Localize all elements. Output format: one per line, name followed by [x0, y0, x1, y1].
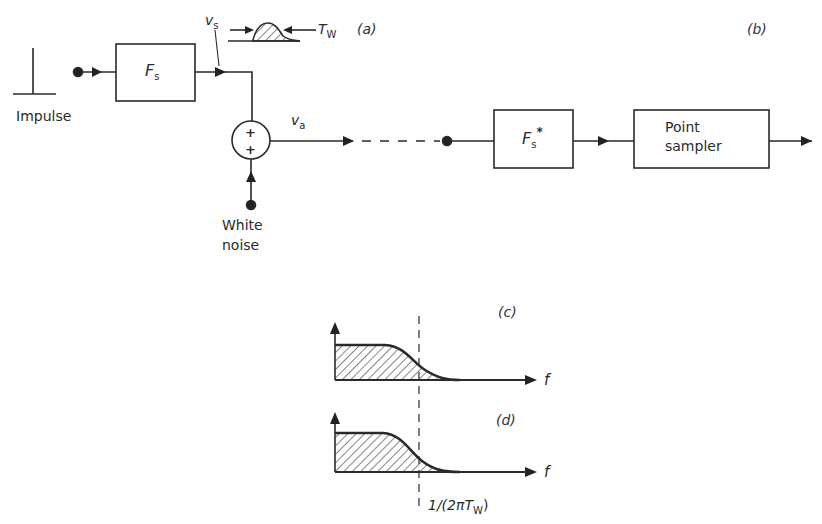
va-subscript: a — [299, 120, 305, 131]
tw-symbol: T — [318, 21, 327, 37]
filter-symbol: F — [145, 61, 154, 80]
arrow-icon — [343, 136, 354, 146]
panel-label-a: (a) — [357, 22, 377, 36]
spectrum-chart-c — [330, 322, 537, 385]
y-axis-arrow-icon — [330, 412, 340, 424]
arrow-icon — [246, 171, 256, 182]
matched-subscript: s — [531, 139, 536, 150]
output-arrow-icon — [801, 136, 812, 146]
arrow-icon — [215, 67, 226, 77]
arrow-icon — [92, 67, 102, 77]
sum-sign-top: + — [245, 126, 256, 139]
y-axis-arrow-icon — [330, 322, 340, 334]
output-va-label: va — [291, 113, 305, 127]
panel-label-b: (b) — [747, 22, 767, 36]
noise-terminal-dot — [247, 201, 256, 210]
tw-subscript: W — [327, 29, 337, 40]
impulse-label: Impulse — [16, 109, 71, 123]
filter-fs-label: Fs — [145, 63, 159, 79]
matched-symbol: F — [522, 129, 531, 148]
sum-sign-bottom: + — [245, 143, 256, 156]
input-terminal-dot — [74, 68, 83, 77]
cutoff-subscript: W — [473, 505, 483, 516]
cutoff-text: 1/(2πT — [428, 497, 473, 513]
freq-axis-label-d: f — [544, 465, 549, 480]
noise-label-line2: noise — [222, 238, 259, 252]
signal-vs-label: vs — [205, 13, 219, 27]
freq-axis-label-c: f — [544, 373, 549, 388]
matched-filter-label: Fs* — [522, 131, 543, 147]
vs-subscript: s — [213, 20, 218, 31]
matched-superscript: * — [536, 125, 542, 139]
cutoff-close: ) — [483, 497, 488, 513]
noise-label-line1: White — [222, 218, 263, 232]
panel-label-d: (d) — [496, 413, 516, 427]
filter-subscript: s — [154, 71, 159, 82]
sampler-label-line1: Point — [665, 120, 700, 134]
pulse-width-label: TW — [318, 22, 336, 36]
arrow-icon — [598, 136, 609, 146]
cutoff-frequency-label: 1/(2πTW) — [428, 498, 488, 512]
pulse-waveform-icon — [228, 23, 316, 41]
impulse-icon — [13, 48, 56, 94]
sampler-label-line2: sampler — [665, 139, 722, 153]
matched-input-dot — [443, 137, 452, 146]
block-diagram — [0, 0, 822, 524]
panel-label-c: (c) — [498, 305, 517, 319]
x-axis-arrow-icon — [525, 375, 537, 385]
x-axis-arrow-icon — [525, 467, 537, 477]
